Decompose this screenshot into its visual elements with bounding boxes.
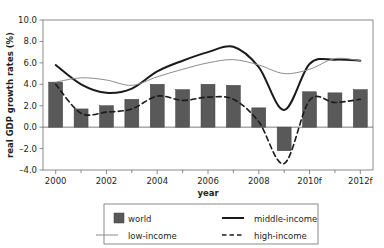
x-axis: 200020022004200620082010f2012f: [45, 170, 374, 186]
chart-legend: worldmiddle-incomelow-incomehigh-income: [96, 204, 318, 244]
bar-world-2007: [226, 85, 240, 127]
bar-world-2011f: [328, 93, 342, 127]
bar-world-2009: [277, 127, 291, 151]
y-tick-label: 6.0: [23, 58, 37, 68]
bar-world-2010f: [303, 92, 317, 127]
bar-world-2001: [74, 109, 88, 127]
y-tick-label: 2.0: [23, 101, 37, 111]
x-tick-label: 2004: [146, 176, 168, 186]
legend-swatch-world: [114, 213, 124, 223]
legend-label-low-income: low-income: [128, 231, 177, 241]
gdp-growth-chart: –4.0–2.00.02.04.06.08.010.0 200020022004…: [0, 0, 384, 248]
x-tick-label: 2010f: [297, 176, 323, 186]
bar-world-2008: [252, 108, 266, 127]
bar-world-2012f: [353, 90, 367, 128]
y-axis: –4.0–2.00.02.04.06.08.010.0: [18, 15, 43, 175]
y-tick-label: 0.0: [23, 122, 37, 132]
y-tick-label: 8.0: [23, 36, 37, 46]
x-tick-label: 2006: [197, 176, 219, 186]
bar-world-2006: [201, 84, 215, 127]
legend-label-middle-income: middle-income: [254, 214, 317, 224]
legend-label-high-income: high-income: [254, 231, 307, 241]
legend-label-world: world: [128, 214, 151, 224]
x-tick-label: 2000: [45, 176, 67, 186]
bar-world-2003: [125, 99, 139, 127]
y-tick-label: 10.0: [18, 15, 37, 25]
bar-world-2000: [49, 82, 63, 127]
bar-world-2002: [99, 106, 113, 127]
x-axis-title: year: [197, 188, 219, 198]
bar-world-2004: [150, 84, 164, 127]
y-tick-label: 4.0: [23, 79, 37, 89]
x-tick-label: 2008: [248, 176, 270, 186]
x-tick-label: 2012f: [348, 176, 374, 186]
bar-world-2005: [176, 90, 190, 128]
y-axis-title: real GDP growth rates (%): [5, 32, 15, 158]
y-tick-label: –4.0: [19, 165, 37, 175]
chart-container: –4.0–2.00.02.04.06.08.010.0 200020022004…: [0, 0, 384, 248]
x-tick-label: 2002: [96, 176, 118, 186]
y-tick-label: –2.0: [19, 144, 37, 154]
